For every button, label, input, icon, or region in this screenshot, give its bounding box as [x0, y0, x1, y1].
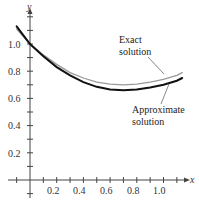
chart: y x 0.2 0.4 0.6 0.8 1.0 0.2 0.4 0.6 0.8 …: [0, 0, 199, 208]
y-tick-label: 0.6: [8, 93, 21, 104]
approx-leader-line: [161, 84, 169, 104]
y-tick-label: 1.0: [8, 39, 21, 50]
exact-annotation-line2: solution: [119, 46, 151, 57]
exact-annotation-line1: Exact: [119, 34, 142, 45]
x-tick-label: 1.0: [153, 185, 166, 196]
x-tick-label: 0.8: [127, 185, 140, 196]
x-axis-label: x: [189, 174, 195, 185]
y-tick-label: 0.4: [8, 120, 21, 131]
y-tick-label: 0.8: [8, 66, 21, 77]
x-tick-label: 0.4: [73, 185, 86, 196]
axes: [8, 8, 190, 198]
exact-solution-line: [17, 29, 183, 85]
x-tick-label: 0.6: [100, 185, 113, 196]
approx-annotation-line1: Approximate: [132, 104, 185, 115]
x-tick-label: 0.2: [47, 185, 60, 196]
series-group: [17, 26, 183, 90]
y-tick-label: 0.2: [8, 148, 21, 159]
y-axis-label: y: [26, 1, 32, 12]
exact-leader-line: [148, 57, 164, 74]
approx-annotation-line2: solution: [132, 116, 164, 127]
